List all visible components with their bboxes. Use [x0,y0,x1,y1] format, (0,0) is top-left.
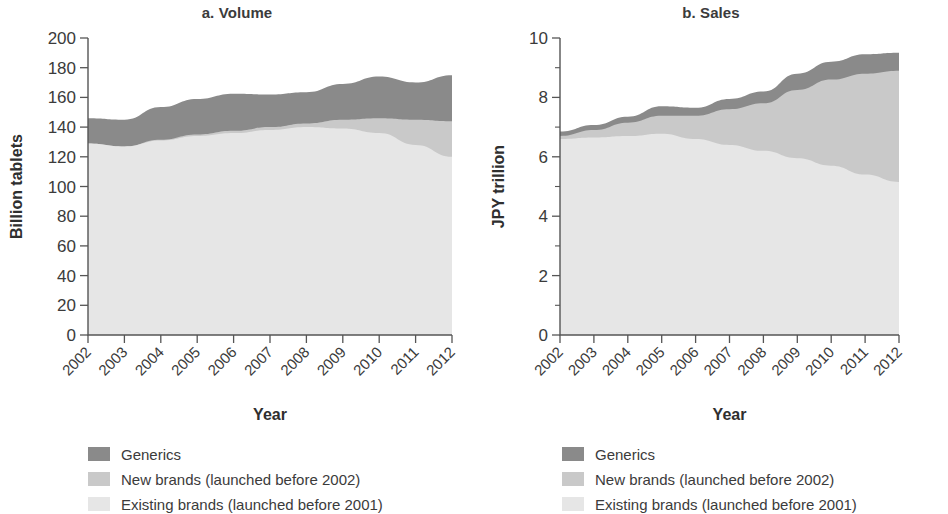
legend-item[interactable]: Generics [562,443,857,465]
x-tick-label: 2005 [168,343,204,379]
x-tick-label: 2005 [632,343,668,379]
y-tick-label: 40 [57,267,76,286]
y-tick-label: 20 [57,296,76,315]
x-tick-label: 2012 [423,343,459,379]
legend-item-label: New brands (launched before 2002) [595,472,834,487]
x-tick-label: 2006 [666,343,702,379]
y-axis-title: Billion tablets [8,134,25,239]
x-tick-label: 2011 [387,343,422,378]
legend-volume: GenericsNew brands (launched before 2002… [88,443,383,514]
legend-swatch-existing-brands [562,497,584,511]
x-tick-label: 2004 [131,343,167,379]
panel-sales: b. Sales 0246810200220032004200520062007… [474,0,948,514]
legend-item-label: New brands (launched before 2002) [121,472,360,487]
volume-chart-canvas: 0204060801001201401601802002002200320042… [0,0,474,440]
x-tick-label: 2002 [59,343,95,379]
panel-volume: a. Volume 020406080100120140160180200200… [0,0,474,514]
x-tick-label: 2007 [241,343,277,379]
y-tick-label: 0 [67,326,76,345]
legend-item-label: Generics [595,447,655,462]
y-tick-label: 4 [539,207,548,226]
y-tick-label: 200 [48,29,76,48]
legend-swatch-new-brands [88,472,110,486]
x-tick-label: 2008 [277,343,313,379]
y-tick-label: 6 [539,148,548,167]
legend-item[interactable]: New brands (launched before 2002) [88,468,383,490]
x-tick-label: 2010 [802,343,838,379]
legend-item-label: Existing brands (launched before 2001) [595,497,857,512]
x-axis-title: Year [253,406,287,423]
x-tick-label: 2010 [350,343,386,379]
legend-item-label: Generics [121,447,181,462]
y-axis-title: JPY trillion [490,145,507,228]
legend-swatch-new-brands [562,472,584,486]
legend-swatch-generics [562,447,584,461]
y-tick-label: 160 [48,88,76,107]
area-band-existing-brands [88,127,452,335]
legend-item[interactable]: Generics [88,443,383,465]
x-axis-title: Year [713,406,747,423]
legend-item[interactable]: Existing brands (launched before 2001) [562,493,857,514]
y-tick-label: 10 [529,29,548,48]
y-tick-label: 2 [539,267,548,286]
legend-item[interactable]: New brands (launched before 2002) [562,468,857,490]
x-tick-label: 2008 [734,343,770,379]
sales-chart-canvas: 0246810200220032004200520062007200820092… [474,0,948,440]
legend-swatch-generics [88,447,110,461]
legend-item-label: Existing brands (launched before 2001) [121,497,383,512]
legend-swatch-existing-brands [88,497,110,511]
x-tick-label: 2002 [531,343,567,379]
x-tick-label: 2012 [870,343,906,379]
y-tick-label: 120 [48,148,76,167]
legend-item[interactable]: Existing brands (launched before 2001) [88,493,383,514]
y-tick-label: 180 [48,59,76,78]
y-tick-label: 140 [48,118,76,137]
x-tick-label: 2004 [598,343,634,379]
y-tick-label: 100 [48,178,76,197]
x-tick-label: 2007 [700,343,736,379]
x-tick-label: 2011 [836,343,871,378]
x-tick-label: 2009 [313,343,349,379]
y-tick-label: 80 [57,207,76,226]
legend-sales: GenericsNew brands (launched before 2002… [562,443,857,514]
stacked-area-figure: a. Volume 020406080100120140160180200200… [0,0,948,514]
y-tick-label: 60 [57,237,76,256]
x-tick-label: 2009 [768,343,804,379]
y-tick-label: 0 [539,326,548,345]
x-tick-label: 2003 [95,343,131,379]
x-tick-label: 2003 [564,343,600,379]
y-tick-label: 8 [539,88,548,107]
x-tick-label: 2006 [204,343,240,379]
